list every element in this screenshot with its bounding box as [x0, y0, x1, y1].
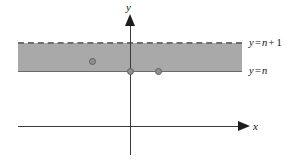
- x-axis-arrow-icon: [238, 121, 250, 131]
- lower-line-equation-label: y=n: [249, 66, 267, 77]
- plot-point: [89, 58, 96, 65]
- plot-point: [127, 68, 134, 75]
- upper-eq-addend: 1: [276, 37, 283, 48]
- upper-eq-equals: =: [254, 37, 262, 48]
- x-axis: [18, 126, 240, 127]
- upper-eq-plus: +: [267, 37, 275, 48]
- y-axis-label: y: [126, 2, 131, 13]
- math-figure-horizontal-strip: y x y=n+1 y=n: [0, 0, 295, 162]
- upper-line-equation-label: y=n+1: [249, 38, 283, 49]
- y-axis-arrow-icon: [125, 14, 135, 26]
- lower-eq-rhs: n: [262, 65, 267, 76]
- x-axis-label: x: [253, 121, 258, 132]
- lower-eq-equals: =: [254, 65, 262, 76]
- y-axis: [130, 22, 131, 155]
- plot-point: [155, 68, 162, 75]
